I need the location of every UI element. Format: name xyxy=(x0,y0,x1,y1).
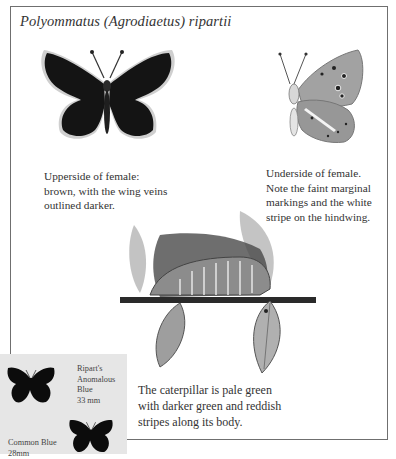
species-name-line: Blue xyxy=(77,385,115,396)
butterfly-silhouette-icon xyxy=(68,418,114,454)
species-name-line: Anomalous xyxy=(77,375,115,386)
butterfly-silhouette-icon xyxy=(6,366,56,404)
caterpillar-caption: The caterpillar is pale green with darke… xyxy=(138,382,288,430)
caption-line: Underside of female. xyxy=(266,166,386,181)
species-name-line: Ripart's xyxy=(77,364,115,375)
caption-line: Note the faint marginal xyxy=(266,181,386,196)
species-size-label: Ripart's Anomalous Blue 33 mm xyxy=(77,364,115,406)
caterpillar-illustration xyxy=(120,205,320,375)
caption-line: Upperside of female: xyxy=(44,169,204,184)
species-size: 28mm xyxy=(8,449,57,459)
species-size-label: Common Blue 28mm xyxy=(8,438,57,459)
species-title: Polyommatus (Agrodiaetus) ripartii xyxy=(20,13,232,30)
butterfly-upperside-illustration xyxy=(34,46,182,144)
caption-line: brown, with the wing veins xyxy=(44,184,204,199)
species-size: 33 mm xyxy=(77,396,115,407)
caption-line: stripes along its body. xyxy=(138,414,288,430)
caption-line: with darker green and reddish xyxy=(138,398,288,414)
size-comparison-inset: Ripart's Anomalous Blue 33 mm Common Blu… xyxy=(0,354,127,454)
caption-line: The caterpillar is pale green xyxy=(138,382,288,398)
butterfly-underside-illustration xyxy=(272,46,368,146)
species-name-line: Common Blue xyxy=(8,438,57,449)
